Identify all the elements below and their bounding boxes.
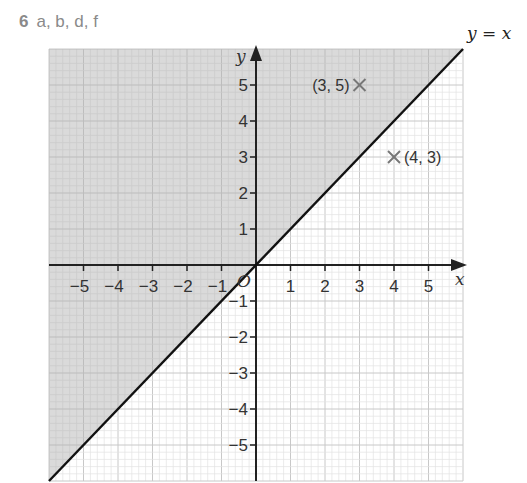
y-tick-label: 5 (239, 76, 248, 95)
point-label: (4, 3) (404, 149, 441, 166)
origin-label: O (237, 271, 251, 291)
coordinate-graph: −5−4−3−2−112345−5−4−3−2−112345Oxy (3, 5)… (0, 0, 527, 483)
point-label: (3, 5) (312, 77, 349, 94)
y-tick-label: 4 (239, 112, 248, 131)
x-tick-label: 4 (389, 277, 398, 296)
x-tick-label: −2 (173, 277, 192, 296)
line-label: y = x (466, 23, 512, 43)
y-tick-label: 3 (239, 148, 248, 167)
x-tick-label: −5 (70, 277, 89, 296)
y-tick-label: −4 (229, 400, 248, 419)
x-tick-label: 3 (355, 277, 364, 296)
x-tick-label: −3 (139, 277, 158, 296)
y-tick-label: −2 (229, 328, 248, 347)
y-tick-label: 1 (239, 220, 248, 239)
y-tick-label: −5 (229, 436, 248, 455)
y-tick-label: 2 (239, 184, 248, 203)
y-axis-label: y (235, 46, 246, 66)
x-tick-label: −1 (208, 277, 227, 296)
y-tick-label: −1 (229, 292, 248, 311)
x-tick-label: −4 (104, 277, 123, 296)
x-tick-label: 2 (320, 277, 329, 296)
y-tick-label: −3 (229, 364, 248, 383)
x-tick-label: 5 (424, 277, 433, 296)
x-axis-label: x (455, 269, 465, 289)
x-tick-label: 1 (286, 277, 295, 296)
